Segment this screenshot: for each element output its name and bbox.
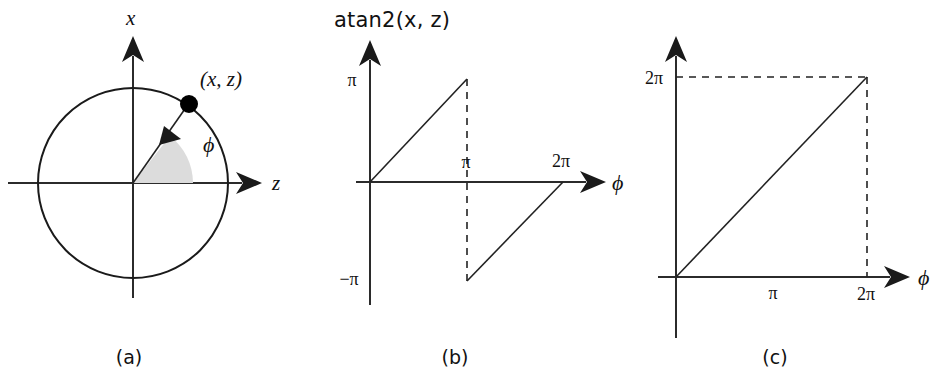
panel-b-branch-1 — [370, 79, 467, 182]
panel-b-x-axis-label: ϕ — [612, 170, 623, 195]
panel-b: atan2(x, z) π −π π 2π ϕ (b) — [334, 8, 623, 368]
panel-a-angle-label: ϕ — [203, 132, 214, 157]
panel-b-xtick-pi: π — [461, 152, 470, 172]
panel-a: (x, z) z x ϕ (a) — [8, 6, 280, 368]
panel-c-ytick-2pi: 2π — [645, 68, 663, 88]
panel-b-ytick-pi: π — [347, 70, 356, 90]
panel-a-z-axis-label: z — [271, 171, 280, 195]
panel-a-point-label: (x, z) — [200, 67, 242, 91]
figure-root: (x, z) z x ϕ (a) atan2(x, z) π −π — [0, 0, 946, 380]
panel-a-point-marker — [180, 95, 198, 113]
panel-c: 2π π 2π ϕ (c) — [645, 36, 929, 368]
panel-b-caption: (b) — [442, 346, 469, 368]
panel-b-ytick-neg-pi: −π — [339, 269, 358, 289]
panel-b-title: atan2(x, z) — [334, 8, 450, 32]
panel-c-xtick-2pi: 2π — [857, 284, 875, 304]
panel-c-x-axis-label: ϕ — [918, 265, 929, 290]
figure-svg: (x, z) z x ϕ (a) atan2(x, z) π −π — [0, 0, 946, 380]
panel-c-xtick-pi: π — [768, 283, 777, 303]
panel-b-branch-2 — [467, 182, 563, 281]
panel-c-identity-line — [676, 77, 867, 277]
panel-b-xtick-2pi: 2π — [552, 151, 570, 171]
panel-a-caption: (a) — [116, 346, 142, 368]
panel-a-x-axis-label: x — [125, 6, 136, 30]
panel-c-caption: (c) — [762, 346, 787, 368]
